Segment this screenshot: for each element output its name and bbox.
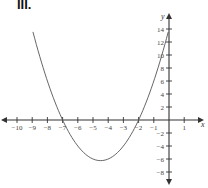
y-tick-label: 14 [157,26,165,34]
y-tick-label: 12 [157,39,165,47]
x-tick-label: −7 [59,124,67,132]
y-tick-label: −4 [157,143,165,151]
x-axis-label: x [200,120,205,129]
y-tick-label: 8 [161,65,165,73]
axes [1,13,204,185]
x-tick-label: −6 [74,124,82,132]
y-tick-label: −8 [157,169,165,177]
parabola-curve [33,32,168,161]
x-axis-left-arrow-icon [1,117,7,123]
x-tick-label: −3 [120,124,128,132]
parabola-graph: −10−9−8−7−6−5−4−3−2−111412108642−2−4−6−8… [0,0,208,188]
y-tick-label: 4 [161,91,165,99]
x-tick-label: 1 [182,124,186,132]
y-axis-label: y [160,12,165,21]
y-tick-label: −2 [157,130,165,138]
x-tick-label: −8 [44,124,52,132]
x-tick-label: −4 [104,124,112,132]
y-axis-down-arrow-icon [166,179,172,185]
axis-ticks [17,29,184,172]
y-tick-label: 2 [161,104,165,112]
y-tick-label: 6 [161,78,165,86]
y-tick-label: −6 [157,156,165,164]
x-tick-label: −9 [28,124,36,132]
x-tick-label: −5 [89,124,97,132]
x-tick-label: −10 [12,124,23,132]
y-axis-up-arrow-icon [166,13,172,19]
